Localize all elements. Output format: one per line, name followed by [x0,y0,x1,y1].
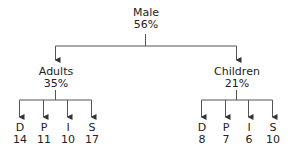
leaf-node: I 6 [246,122,253,146]
leaf-value: 7 [223,134,230,146]
leaf-value: 8 [198,134,206,146]
leaf-value: 14 [13,134,27,146]
leaf-node: D 8 [198,122,206,146]
group-node-children: Children 21% [214,66,260,90]
leaf-value: 10 [266,134,280,146]
group-value: 21% [214,78,260,90]
root-value: 56% [133,19,159,31]
leaf-node: P 11 [37,122,51,146]
leaf-node: S 17 [85,122,99,146]
leaf-value: 17 [85,134,99,146]
leaf-node: P 7 [223,122,230,146]
leaf-node: D 14 [13,122,27,146]
leaf-node: S 10 [266,122,280,146]
group-value: 35% [39,78,73,90]
leaf-value: 10 [61,134,75,146]
group-node-adults: Adults 35% [39,66,73,90]
leaf-node: I 10 [61,122,75,146]
root-node: Male 56% [133,7,159,31]
leaf-value: 11 [37,134,51,146]
leaf-value: 6 [246,134,253,146]
